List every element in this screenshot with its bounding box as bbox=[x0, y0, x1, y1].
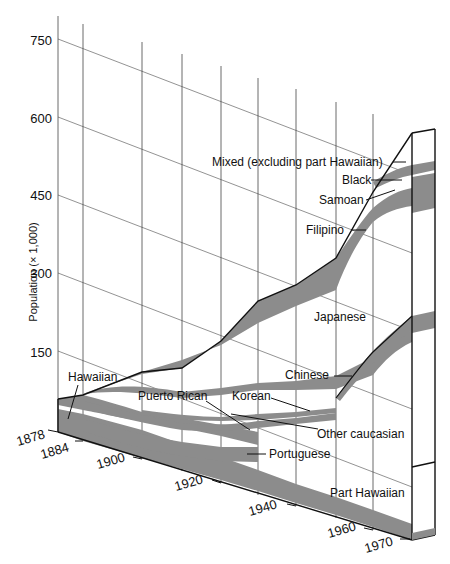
x-tick-1970: 1970 bbox=[363, 533, 395, 555]
bands bbox=[58, 161, 435, 540]
label-samoan: Samoan bbox=[319, 193, 364, 207]
x-tick-1878: 1878 bbox=[15, 426, 47, 448]
label-hawaiian: Hawaiian bbox=[68, 370, 117, 384]
label-other-caucasian: Other caucasian bbox=[317, 427, 404, 441]
label-portuguese: Portuguese bbox=[269, 447, 331, 461]
label-part-hawaiian: Part Hawaiian bbox=[330, 486, 405, 500]
label-filipino: Filipino bbox=[306, 223, 344, 237]
y-tick-750: 750 bbox=[30, 33, 52, 48]
x-tick-1960: 1960 bbox=[326, 518, 358, 540]
label-puerto-rican: Puerto Rican bbox=[138, 389, 207, 403]
y-tick-300: 300 bbox=[30, 266, 52, 281]
band-japanese-right bbox=[412, 311, 435, 333]
label-black: Black bbox=[342, 173, 372, 187]
band-chinese-right bbox=[336, 316, 412, 401]
population-chart: Population (× 1,000) 750 600 450 300 150 bbox=[0, 0, 450, 564]
x-tick-1884: 1884 bbox=[39, 439, 71, 461]
x-tick-1920: 1920 bbox=[173, 471, 205, 493]
label-korean: Korean bbox=[232, 389, 271, 403]
label-mixed: Mixed (excluding part Hawaiian) bbox=[212, 155, 383, 169]
x-tick-1900: 1900 bbox=[95, 449, 127, 471]
y-tick-150: 150 bbox=[30, 345, 52, 360]
label-japanese: Japanese bbox=[314, 310, 366, 324]
label-chinese: Chinese bbox=[285, 368, 329, 382]
y-tick-450: 450 bbox=[30, 188, 52, 203]
x-tick-1940: 1940 bbox=[247, 496, 279, 518]
y-tick-600: 600 bbox=[30, 111, 52, 126]
band-filipino bbox=[412, 173, 435, 213]
